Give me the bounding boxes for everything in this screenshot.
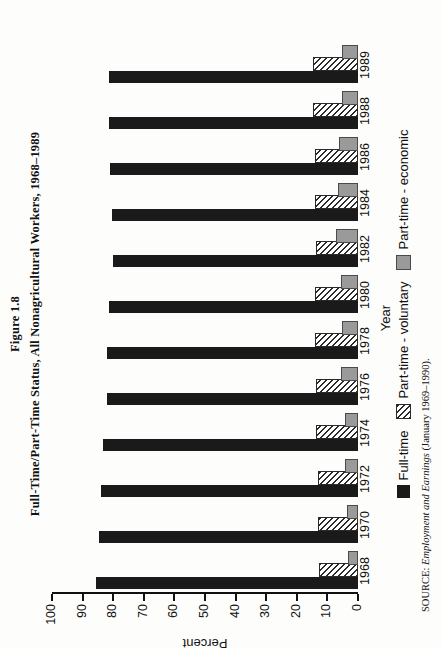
bar-group [52,231,358,267]
legend-label: Part-time - economic [396,130,411,250]
source-prefix: SOURCE: [420,568,431,612]
legend-swatch-icon [397,485,410,498]
figure-page: Figure 1.8 Full-Time/Part-Time Status, A… [0,0,442,648]
bar-group [52,553,358,589]
x-axis-tick-label: 1988 [358,88,372,134]
bar-ft [96,577,358,589]
y-axis-tick-label: 50 [197,604,211,636]
y-axis-tick [112,594,114,601]
legend-swatch-icon [396,404,411,419]
bar-ft [113,255,358,267]
y-axis-tick [357,594,359,601]
legend-label: Part-time - voluntary [396,282,411,399]
x-axis-tick-label: 1976 [358,364,372,410]
legend-swatch-icon [396,255,411,270]
bar-pe [342,45,358,59]
y-axis-tick-label: 10 [319,604,333,636]
bar-ft [107,347,358,359]
bar-ft [103,439,359,451]
y-axis-tick [173,594,175,601]
y-axis-tick [51,594,53,601]
bar-group [52,277,358,313]
y-axis-tick [265,594,267,601]
y-axis-tick-label: 30 [258,604,272,636]
bar-group [52,139,358,175]
bar-group [52,507,358,543]
bar-pv [313,103,358,117]
x-axis-tick-label: 1984 [358,180,372,226]
bar-pe [342,321,358,335]
x-axis-tick-label: 1974 [358,410,372,456]
bar-group [52,323,358,359]
bar-ft [109,117,358,129]
bar-pe [336,229,358,243]
y-axis-tick [204,594,206,601]
y-axis-tick [326,594,328,601]
bar-ft [109,301,358,313]
bar-pv [318,517,358,531]
bar-pv [316,241,358,255]
y-axis-title: Percent [183,636,228,648]
bar-pv [316,379,358,393]
bar-group [52,93,358,129]
x-axis-title: Year [378,42,393,594]
bar-pe [341,275,358,289]
bar-pv [315,195,358,209]
bar-pv [313,57,358,71]
plot-area: 0102030405060708090100 Percent 196819701… [52,42,358,594]
x-axis-tick-label: 1986 [358,134,372,180]
source-publication: Employment and Earnings [420,453,431,565]
bar-pe [348,551,358,565]
bar-pv [315,333,358,347]
legend-label: Full-time [396,431,411,481]
y-axis-tick [296,594,298,601]
bar-pe [339,137,358,151]
y-axis-tick-label: 20 [289,604,303,636]
bar-group [52,461,358,497]
y-axis-tick-label: 60 [166,604,180,636]
bar-group [52,369,358,405]
figure-canvas: Figure 1.8 Full-Time/Part-Time Status, A… [0,0,442,648]
bar-group [52,415,358,451]
bar-group [52,47,358,83]
bar-pe [341,367,358,381]
y-axis-tick [143,594,145,601]
x-axis-tick-label: 1968 [358,548,372,594]
bar-ft [109,71,358,83]
figure-number: Figure 1.8 [8,0,23,648]
source-detail: (January 1969–1990). [420,358,431,450]
bar-ft [112,209,358,221]
bar-pv [316,425,358,439]
bar-ft [107,393,358,405]
bar-pe [345,413,358,427]
bar-pv [318,471,358,485]
y-axis-tick [82,594,84,601]
figure-title: Full-Time/Part-Time Status, All Nonagric… [28,0,43,648]
source-note: SOURCE: Employment and Earnings (January… [420,358,431,612]
y-axis-tick-label: 80 [105,604,119,636]
x-axis-tick-label: 1982 [358,226,372,272]
bar-pe [347,505,358,519]
legend-item-part_time_economic: Part-time - economic [396,130,411,270]
legend-item-full_time: Full-time [396,431,411,499]
y-axis-tick-label: 100 [44,604,58,636]
x-axis-tick-label: 1989 [358,42,372,88]
bar-pe [345,459,358,473]
y-axis-tick-label: 40 [228,604,242,636]
x-axis-tick-label: 1980 [358,272,372,318]
y-axis-tick-label: 0 [350,604,364,636]
chart-legend: Full-timePart-time - voluntaryPart-time … [396,34,411,594]
y-axis-tick-label: 90 [75,604,89,636]
x-axis-tick-label: 1970 [358,502,372,548]
bar-ft [99,531,358,543]
x-axis-tick-label: 1972 [358,456,372,502]
bar-pv [319,563,358,577]
bar-ft [101,485,358,497]
y-axis-tick [235,594,237,601]
bar-pv [315,287,358,301]
bar-ft [110,163,358,175]
x-axis-tick-label: 1978 [358,318,372,364]
bar-pv [315,149,358,163]
legend-item-part_time_voluntary: Part-time - voluntary [396,282,411,419]
bar-group [52,185,358,221]
